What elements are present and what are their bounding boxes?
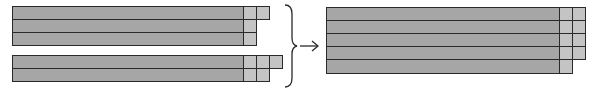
unit-cell — [559, 7, 573, 21]
right-arrow-icon — [300, 41, 318, 51]
unit-cell — [572, 7, 586, 21]
unit-cell — [572, 20, 586, 34]
unit-cell — [572, 46, 586, 60]
bar-row — [326, 46, 561, 60]
unit-cell — [559, 33, 573, 47]
bar-row — [326, 33, 561, 47]
bar-row — [326, 59, 561, 74]
unit-cell — [559, 46, 573, 60]
bar-row — [326, 20, 561, 34]
curly-brace-icon — [285, 5, 297, 87]
unit-cell — [559, 59, 573, 74]
unit-cell — [559, 20, 573, 34]
unit-cell — [572, 33, 586, 47]
bar-row — [326, 7, 561, 21]
